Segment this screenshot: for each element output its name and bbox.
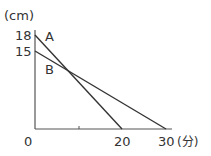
y-tick-15: 15 bbox=[15, 44, 32, 59]
x-tick-20: 20 bbox=[114, 134, 131, 149]
line-b-label: B bbox=[45, 62, 54, 77]
line-b bbox=[35, 51, 166, 129]
line-a bbox=[35, 35, 122, 129]
x-unit-label: (分) bbox=[177, 135, 198, 149]
y-tick-18: 18 bbox=[15, 28, 32, 43]
chart-canvas: (cm) 18 15 A B 0 20 30 (分) bbox=[0, 0, 211, 156]
y-unit-label: (cm) bbox=[4, 8, 34, 23]
origin-label: 0 bbox=[24, 134, 32, 149]
line-a-label: A bbox=[45, 29, 54, 44]
x-tick-30: 30 bbox=[158, 134, 175, 149]
